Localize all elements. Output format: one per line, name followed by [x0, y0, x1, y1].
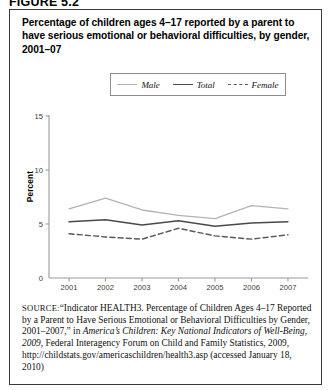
x-tick-label: 2006: [243, 283, 260, 292]
legend-label-female: Female: [252, 80, 279, 90]
source-note: SOURCE:“Indicator HEALTH3. Percentage of…: [22, 303, 314, 373]
y-axis-label: Percent: [26, 171, 35, 202]
source-prefix: SOURCE:: [22, 303, 60, 313]
legend-swatch-male-icon: [117, 84, 137, 85]
x-tick-label: 2002: [97, 283, 114, 292]
figure-title: Percentage of children ages 4–17 reporte…: [22, 16, 312, 56]
legend-swatch-female-icon: [228, 84, 248, 85]
x-tick-label: 2005: [207, 283, 224, 292]
source-text-2: , Federal Interagency Forum on Child and…: [22, 338, 292, 371]
figure-number-label: FIGURE 5.2: [9, 0, 79, 9]
series-line-female: [69, 228, 288, 239]
chart-plot-area: Percent 05101520012002200320042005200620…: [22, 104, 312, 294]
chart-legend: Male Total Female: [110, 73, 286, 96]
line-chart: 0510152001200220032004200520062007: [22, 104, 312, 294]
legend-item-male: Male: [117, 80, 160, 90]
legend-item-total: Total: [173, 80, 215, 90]
y-tick-label: 0: [39, 274, 43, 283]
series-line-total: [69, 220, 288, 226]
x-tick-label: 2003: [134, 283, 151, 292]
x-tick-label: 2004: [170, 283, 187, 292]
y-tick-label: 15: [35, 112, 43, 121]
y-tick-label: 5: [39, 220, 43, 229]
legend-swatch-total-icon: [173, 84, 193, 85]
x-tick-label: 2001: [61, 283, 78, 292]
figure-page: FIGURE 5.2 Percentage of children ages 4…: [0, 0, 335, 390]
series-line-male: [69, 198, 288, 219]
legend-label-total: Total: [197, 80, 215, 90]
legend-item-female: Female: [228, 80, 279, 90]
x-tick-label: 2007: [279, 283, 296, 292]
y-tick-label: 10: [35, 166, 43, 175]
legend-label-male: Male: [141, 80, 160, 90]
